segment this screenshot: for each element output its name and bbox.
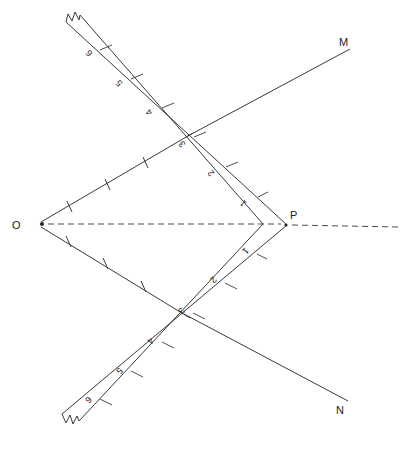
ray-O-lower: [41, 227, 190, 318]
point-labels: O P M N: [12, 36, 348, 416]
segment-label-upper-3: 3: [177, 139, 188, 149]
point-dot-O: [40, 222, 44, 226]
label-N: N: [336, 404, 344, 416]
segment-numbers-upper: 1 2 3 4 5 6: [84, 48, 249, 208]
label-O: O: [12, 219, 21, 231]
point-dot-P: [284, 223, 287, 226]
graduation-dividers-upper: [100, 45, 268, 197]
ray-to-N: [184, 314, 348, 401]
strip-break-upper: [66, 12, 80, 22]
diagram-canvas: 1 2 3 4 5 6 1 2 3 4 5 6 O P M N: [0, 0, 413, 449]
segment-label-upper-4: 4: [144, 107, 155, 117]
ray-to-M: [186, 49, 350, 137]
label-M: M: [339, 36, 348, 48]
segment-label-lower-5: 5: [114, 366, 125, 376]
segment-label-upper-1: 1: [238, 198, 249, 208]
segment-label-lower-6: 6: [83, 395, 94, 405]
strip-outer-edge: [62, 22, 287, 414]
geometry-figure: 1 2 3 4 5 6 1 2 3 4 5 6 O P M N: [0, 0, 413, 449]
strip-inner-edge: [79, 15, 263, 421]
tick-group-upper-O-ray: [67, 157, 148, 212]
label-P: P: [290, 209, 297, 221]
axis-dashed-line: [48, 224, 398, 227]
strip-break-lower: [62, 414, 79, 424]
ray-O-upper: [41, 133, 193, 222]
segment-label-upper-5: 5: [114, 78, 125, 88]
graduation-dividers-lower: [100, 254, 267, 405]
segment-label-lower-2: 2: [208, 275, 219, 285]
segment-label-upper-6: 6: [84, 48, 95, 58]
